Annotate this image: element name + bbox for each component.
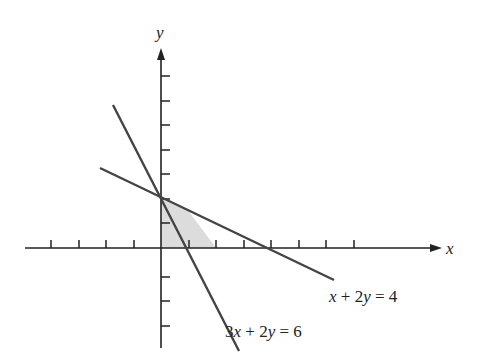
line-3x-2y-6 bbox=[113, 105, 239, 351]
y-axis-arrow-icon bbox=[157, 48, 165, 60]
x-axis-label: x bbox=[445, 239, 454, 258]
label-x-2y-4: x + 2y = 4 bbox=[328, 287, 398, 306]
x-axis-arrow-icon bbox=[430, 244, 442, 252]
x-axis bbox=[25, 240, 442, 252]
y-axis-label: y bbox=[154, 23, 164, 42]
line-x-2y-4 bbox=[100, 168, 334, 280]
label-3x-2y-6: 3x + 2y = 6 bbox=[225, 322, 302, 341]
linear-inequalities-graph: y x x + 2y = 4 3x + 2y = 6 bbox=[0, 0, 482, 362]
